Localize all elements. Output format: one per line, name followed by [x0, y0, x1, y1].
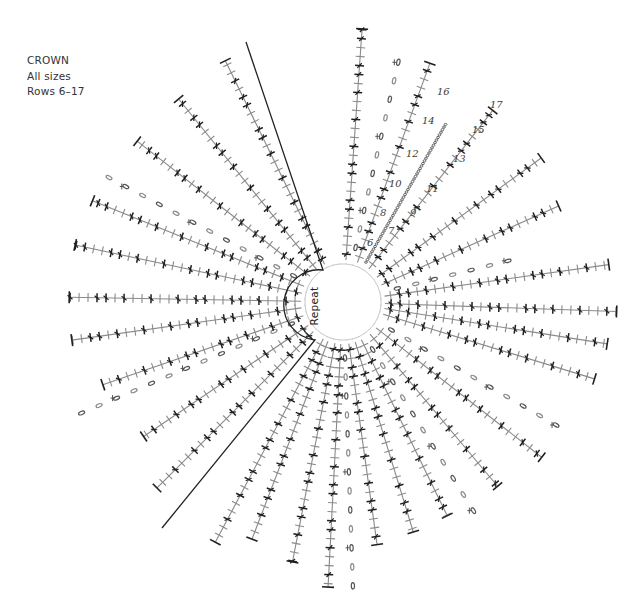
spoke-stitch — [384, 305, 608, 350]
row-label-7: 7 — [388, 225, 395, 236]
spoke-stitch — [342, 27, 368, 260]
spoke-stitch — [71, 304, 301, 346]
row-label-15: 15 — [472, 124, 485, 135]
spoke-stitch — [153, 332, 314, 493]
spoke-chain-dots — [370, 346, 477, 514]
spoke-stitch — [174, 95, 317, 269]
row-label-6: 6 — [367, 237, 374, 248]
row-label-16: 16 — [437, 86, 450, 97]
repeat-label: Repeat — [308, 287, 320, 326]
stitch-spokes — [68, 27, 617, 589]
spoke-stitch — [322, 344, 345, 587]
row-label-13: 13 — [453, 153, 466, 164]
spoke-stitch — [370, 334, 502, 490]
row-label-11: 11 — [426, 183, 439, 194]
spoke-stitch — [101, 313, 303, 390]
spoke-stitch — [383, 312, 596, 385]
spoke-stitch — [377, 153, 545, 277]
row-label-9: 9 — [410, 207, 417, 218]
spoke-stitch — [246, 341, 330, 541]
crown-crochet-chart: 67891011121314151617 Repeat — [0, 0, 631, 604]
row-label-10: 10 — [389, 178, 402, 189]
spoke-chain-dots — [105, 175, 297, 279]
row-label-14: 14 — [422, 115, 435, 126]
spoke-stitch — [210, 339, 324, 545]
spoke-stitch — [385, 299, 617, 317]
spoke-stitch — [68, 291, 301, 305]
spoke-chain-dots — [340, 355, 354, 589]
spoke-chain-dots — [78, 321, 295, 416]
row-label-8: 8 — [380, 207, 386, 218]
row-label-12: 12 — [406, 148, 419, 159]
row-label-17: 17 — [490, 99, 503, 110]
